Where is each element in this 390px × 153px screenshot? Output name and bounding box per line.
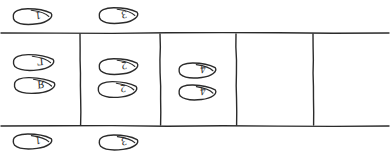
footprint-fp-c0-L [13, 52, 55, 72]
grid-divider-1 [160, 34, 161, 125]
grid-lines [1, 33, 389, 127]
footprint-fp-c0-R [14, 76, 55, 95]
footprint-outline [179, 83, 217, 101]
footprint-fp-top-3 [99, 5, 139, 25]
footprint-outline [99, 133, 139, 152]
footprint-fp-c1-2b [98, 79, 138, 99]
grid-divider-0 [80, 34, 81, 125]
handdrawn-diagram-svg [0, 0, 390, 153]
footprint-fp-top-1 [13, 6, 53, 26]
footprint-outline [178, 61, 216, 79]
footprint-outline [13, 132, 53, 151]
grid-bottom-line [1, 126, 389, 127]
footprint-fp-bot-3 [99, 133, 139, 152]
diagram-canvas: 13ΓЯ224413 [0, 0, 390, 153]
grid-divider-3 [313, 34, 314, 125]
footprint-fp-bot-1 [13, 132, 53, 151]
footprint-outline [13, 6, 53, 26]
footprint-fp-c1-2a [99, 56, 139, 76]
grid-top-line [1, 33, 389, 34]
footprint-outline [14, 76, 55, 95]
footprint-fp-c2-4a [178, 61, 216, 79]
footprint-fp-c2-4b [179, 83, 217, 101]
footprint-outline [98, 79, 138, 99]
grid-divider-2 [236, 34, 237, 125]
footprint-outline [99, 56, 139, 76]
footprint-outline [13, 52, 55, 72]
footprint-outline [99, 5, 139, 25]
footprint-outlines [13, 5, 217, 151]
